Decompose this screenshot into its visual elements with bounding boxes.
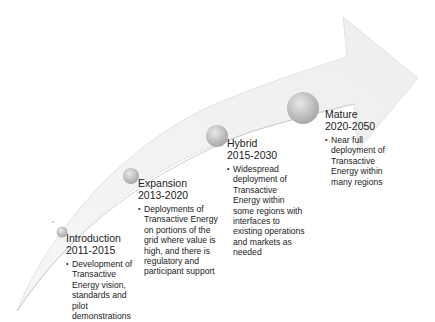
speck-dot xyxy=(52,221,54,223)
stage-hybrid: Hybrid 2015-2030 Widespread deployment o… xyxy=(227,137,305,258)
stage-years: 2020-2050 xyxy=(325,120,385,132)
stage-bullet: Development of Transactive Energy vision… xyxy=(66,259,132,321)
stage-bullet: Near full deployment of Transactive Ener… xyxy=(325,135,385,187)
expansion-marker-icon xyxy=(123,168,139,184)
stage-expansion: Expansion 2013-2020 Deployments of Trans… xyxy=(138,177,218,277)
stage-title: Introduction xyxy=(66,232,132,244)
stage-bullet: Widespread deployment of Transactive Ene… xyxy=(227,164,305,258)
stage-title: Hybrid xyxy=(227,137,305,149)
stage-mature: Mature 2020-2050 Near full deployment of… xyxy=(325,108,385,187)
stage-years: 2011-2015 xyxy=(66,244,132,256)
stage-title: Expansion xyxy=(138,177,218,189)
stage-introduction: Introduction 2011-2015 Development of Tr… xyxy=(66,232,132,321)
stage-title: Mature xyxy=(325,108,385,120)
stage-bullet: Deployments of Transactive Energy on por… xyxy=(138,204,218,277)
stage-years: 2013-2020 xyxy=(138,189,218,201)
mature-marker-icon xyxy=(287,92,319,124)
hybrid-marker-icon xyxy=(206,125,228,147)
stage-years: 2015-2030 xyxy=(227,149,305,161)
